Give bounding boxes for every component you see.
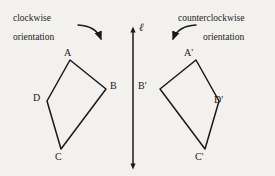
polygon-abcd [47,60,106,149]
vertex-label-a: A [64,48,71,58]
counterclockwise-arrow-icon [173,25,196,39]
vertex-label-d: D [33,93,40,103]
vertex-label-c: C [55,152,62,162]
counterclockwise-caption-orientation: orientation [203,33,244,43]
vertex-label-d-prime: D' [214,95,223,105]
vertex-label-c-prime: C' [195,152,203,162]
vertex-label-b: B [110,81,117,91]
counterclockwise-caption-word: counterclockwise [178,14,244,24]
vertex-label-a-prime: A' [184,48,193,58]
clockwise-arrow-icon [78,25,101,39]
polygon-a-prime-b-prime-c-prime-d-prime [160,60,219,149]
mirror-line-label: ℓ [139,22,144,33]
vertex-label-b-prime: B' [138,81,146,91]
clockwise-caption-orientation: orientation [13,33,54,43]
mirror-line [130,27,135,170]
reflection-diagram: clockwise orientation counterclockwise o… [0,0,275,176]
clockwise-caption-word: clockwise [13,14,51,24]
